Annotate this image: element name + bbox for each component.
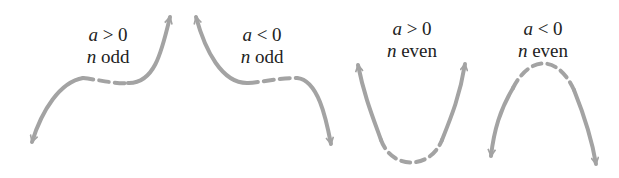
label-a-neg-n-even: a < 0 n even xyxy=(503,18,583,62)
variable-n: n xyxy=(518,40,528,61)
curve-a-neg-n-even xyxy=(491,63,596,164)
variable-n: n xyxy=(241,46,251,67)
curve-a-pos-n-even xyxy=(358,64,465,163)
variable-a: a xyxy=(242,24,252,45)
variable-a: a xyxy=(88,24,98,45)
condition-n: odd xyxy=(96,46,129,67)
label-a-neg-n-odd: a < 0 n odd xyxy=(226,24,298,68)
label-a-pos-n-even: a > 0 n even xyxy=(372,18,452,62)
variable-n: n xyxy=(387,40,397,61)
condition-a: > 0 xyxy=(98,24,128,45)
condition-n: even xyxy=(527,40,568,61)
condition-a: < 0 xyxy=(252,24,282,45)
condition-n: odd xyxy=(250,46,283,67)
condition-a: < 0 xyxy=(533,18,563,39)
condition-a: > 0 xyxy=(402,18,432,39)
label-a-pos-n-odd: a > 0 n odd xyxy=(72,24,144,68)
variable-a: a xyxy=(392,18,402,39)
variable-a: a xyxy=(523,18,533,39)
variable-n: n xyxy=(87,46,97,67)
condition-n: even xyxy=(396,40,437,61)
